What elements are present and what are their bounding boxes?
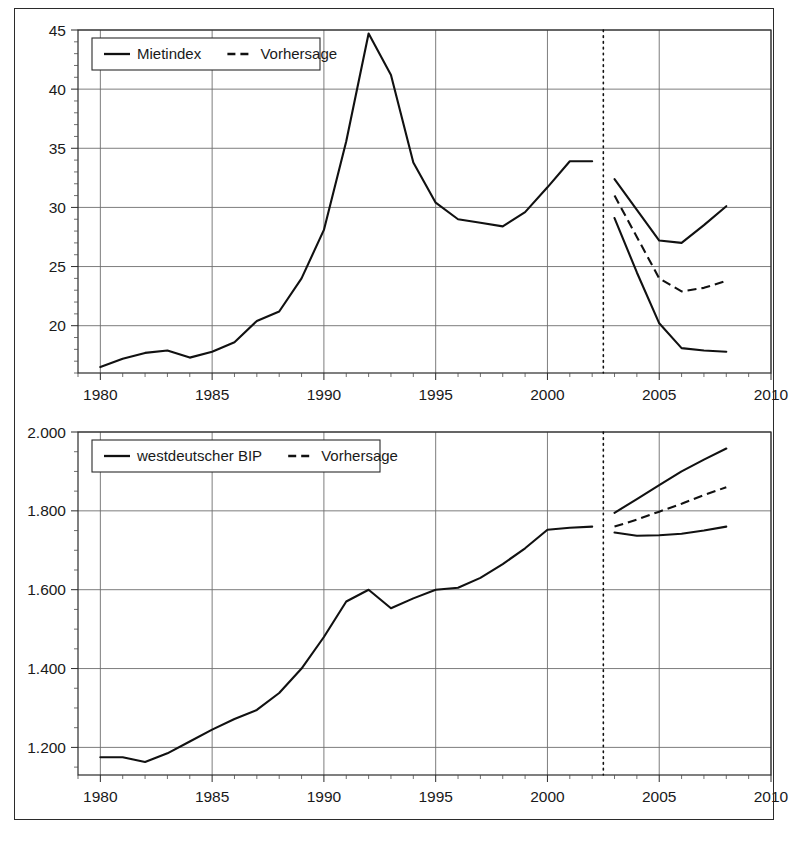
xtick-label: 1985 (195, 788, 229, 805)
xtick-label: 1980 (83, 386, 118, 403)
chart-mietindex-canvas: 2025303540451980198519901995200020052010… (0, 16, 802, 416)
ytick-label: 35 (49, 140, 66, 157)
ytick-label: 40 (49, 81, 67, 98)
chart-westdeutscher-bip-canvas: 1.2001.4001.6001.8002.000198019851990199… (0, 418, 802, 818)
series-line-vorhersage-mittleres-szenario (615, 196, 727, 292)
legend-label: westdeutscher BIP (136, 447, 262, 464)
xtick-label: 2000 (530, 386, 565, 403)
ytick-label: 30 (49, 199, 67, 216)
legend-label: Vorhersage (321, 447, 398, 464)
ytick-label: 20 (49, 317, 67, 334)
tick-label-group: 2025303540451980198519901995200020052010 (49, 22, 789, 404)
ytick-label: 25 (49, 258, 66, 275)
ytick-label: 1.200 (27, 739, 66, 756)
series-group (100, 449, 726, 762)
plot-frame (78, 30, 771, 373)
xtick-label: 2000 (530, 788, 565, 805)
xtick-label: 1980 (83, 788, 118, 805)
ytick-label: 1.600 (27, 581, 66, 598)
ytick-label: 2.000 (27, 424, 66, 441)
xtick-label: 1990 (307, 386, 342, 403)
series-line-vorhersage-unteres-szenario (615, 527, 727, 536)
xtick-label: 2010 (754, 386, 789, 403)
series-line-westdeutscher-bip (100, 527, 592, 762)
legend: MietindexVorhersage (92, 38, 337, 70)
series-line-vorhersage-unteres-szenario (615, 218, 727, 352)
legend: westdeutscher BIPVorhersage (92, 440, 398, 472)
legend-label: Mietindex (137, 45, 202, 62)
plot-frame (78, 432, 771, 775)
xtick-label: 2005 (642, 386, 676, 403)
ytick-label: 1.800 (27, 502, 66, 519)
axis-group (71, 432, 771, 782)
xtick-label: 2010 (754, 788, 789, 805)
xtick-label: 1985 (195, 386, 229, 403)
xtick-label: 1995 (418, 788, 452, 805)
axis-group (71, 30, 771, 380)
series-line-vorhersage-oberes-szenario (615, 449, 727, 513)
grid-group (78, 432, 771, 775)
legend-label: Vorhersage (260, 45, 337, 62)
grid-group (78, 30, 771, 373)
series-line-mietindex (100, 34, 592, 368)
series-group (100, 34, 726, 368)
xtick-label: 1995 (418, 386, 452, 403)
xtick-label: 1990 (307, 788, 342, 805)
figure-root: 2025303540451980198519901995200020052010… (0, 0, 802, 841)
chart-westdeutscher-bip: 1.2001.4001.6001.8002.000198019851990199… (0, 418, 802, 818)
ytick-label: 45 (49, 22, 66, 39)
ytick-label: 1.400 (27, 660, 66, 677)
series-line-vorhersage-oberes-szenario (615, 179, 727, 243)
xtick-label: 2005 (642, 788, 676, 805)
series-line-vorhersage-mittleres-szenario (615, 487, 727, 526)
chart-mietindex: 2025303540451980198519901995200020052010… (0, 16, 802, 416)
